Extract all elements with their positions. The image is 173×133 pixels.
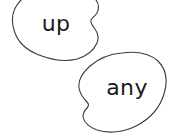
blob-word-any: any bbox=[106, 75, 148, 100]
blob-illustration: upany bbox=[0, 0, 173, 133]
blob-group-up[interactable]: up bbox=[12, 0, 98, 60]
blob-word-up: up bbox=[42, 11, 71, 36]
blob-group-any[interactable]: any bbox=[79, 52, 166, 132]
worksheet-canvas: upany bbox=[0, 0, 173, 133]
